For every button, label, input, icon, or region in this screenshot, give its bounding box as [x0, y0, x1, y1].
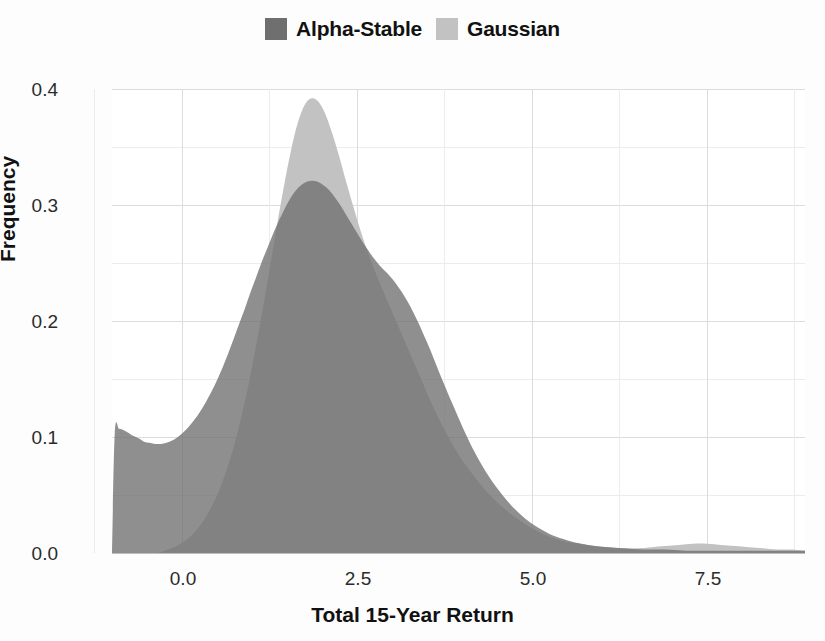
- y-tick-label-0.4: 0.4: [0, 80, 58, 99]
- y-tick-label-0.2: 0.2: [0, 312, 58, 331]
- chart-figure: Alpha-Stable Gaussian 0.4 0.3 0.2 0.1 0.…: [0, 0, 825, 641]
- legend-swatch-gaussian: [436, 18, 458, 40]
- x-axis-title: Total 15-Year Return: [0, 603, 825, 627]
- x-tick-label-7.5: 7.5: [673, 569, 743, 588]
- legend-label-alpha-stable: Alpha-Stable: [296, 18, 422, 40]
- plot-area: [112, 89, 805, 553]
- density-curves: [112, 89, 805, 553]
- y-axis-title: Frequency: [0, 156, 20, 262]
- x-tick-label-5.0: 5.0: [498, 569, 568, 588]
- legend-item-alpha-stable[interactable]: Alpha-Stable: [265, 18, 422, 40]
- x-tick-label-0.0: 0.0: [148, 569, 218, 588]
- legend-swatch-alpha-stable: [265, 18, 287, 40]
- legend-label-gaussian: Gaussian: [467, 18, 560, 40]
- grid-line-x-minor: [94, 89, 95, 553]
- y-tick-label-0.1: 0.1: [0, 428, 58, 447]
- y-tick-label-0.0: 0.0: [0, 544, 58, 563]
- x-tick-label-2.5: 2.5: [323, 569, 393, 588]
- legend-item-gaussian[interactable]: Gaussian: [436, 18, 560, 40]
- area-alpha-stable: [112, 181, 805, 553]
- chart-legend: Alpha-Stable Gaussian: [0, 18, 825, 40]
